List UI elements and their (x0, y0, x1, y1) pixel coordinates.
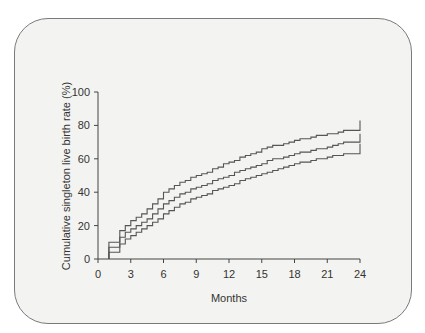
x-tick-label: 0 (95, 268, 101, 280)
y-tick-label: 40 (78, 186, 90, 198)
y-tick-label: 80 (78, 119, 90, 131)
x-tick-label: 15 (256, 268, 268, 280)
x-tick-label: 6 (160, 268, 166, 280)
x-tick-label: 9 (193, 268, 199, 280)
y-axis-title: Cumulative singleton live birth rate (%) (60, 82, 72, 270)
series-group (109, 120, 360, 259)
y-tick-label: 0 (84, 253, 90, 265)
y-tick-label: 100 (72, 86, 90, 98)
y-tick-label: 20 (78, 220, 90, 232)
x-tick-label: 21 (321, 268, 333, 280)
x-tick-label: 3 (128, 268, 134, 280)
cumulative-rate-curve (109, 134, 360, 259)
chart-svg: 03691215182124020406080100 Months Cumula… (0, 0, 425, 333)
upper-ci-curve (109, 120, 360, 259)
x-axis-title: Months (211, 292, 248, 304)
y-tick-label: 60 (78, 153, 90, 165)
x-tick-label: 24 (354, 268, 366, 280)
x-tick-label: 12 (223, 268, 235, 280)
x-tick-label: 18 (288, 268, 300, 280)
ticks: 03691215182124020406080100 (72, 86, 366, 280)
